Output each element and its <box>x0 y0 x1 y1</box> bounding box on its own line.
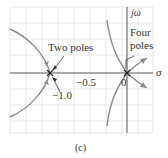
tick-label-zero: 0 <box>121 77 127 88</box>
y-axis-label: jω <box>131 8 141 18</box>
arrow-icon <box>44 80 49 85</box>
tick-label-neg-0-5: −0.5 <box>76 77 96 88</box>
four-poles-label-line1: Four <box>130 27 151 38</box>
four-poles-label-line2: poles <box>130 40 153 51</box>
x-axis-label: σ <box>156 67 161 78</box>
arrow-icon <box>44 61 49 66</box>
tick-label-neg-1-0: −1.0 <box>52 90 72 101</box>
two-poles-label: Two poles <box>48 42 93 53</box>
figure-caption: (c) <box>75 143 86 153</box>
